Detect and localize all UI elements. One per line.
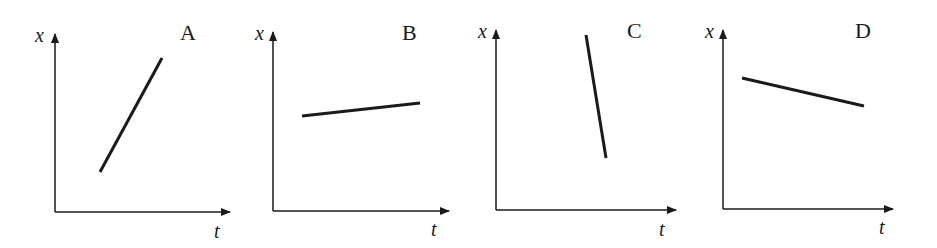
- graphs-canvas: x t A x t B x t C x t D: [0, 0, 937, 248]
- position-line: [742, 78, 864, 106]
- panel-label: C: [627, 18, 642, 43]
- panel-label: A: [180, 20, 196, 45]
- graph-panel-a: x t A: [34, 20, 230, 242]
- x-axis-label: t: [214, 220, 220, 242]
- position-line: [302, 103, 420, 116]
- graph-panel-b: x t B: [254, 20, 449, 240]
- x-axis-label: t: [659, 218, 665, 240]
- panel-label: D: [855, 18, 871, 43]
- y-axis-label: x: [704, 20, 714, 42]
- x-axis-label: t: [879, 216, 885, 238]
- position-line: [100, 58, 162, 172]
- graph-panel-c: x t C: [477, 18, 676, 240]
- y-axis-label: x: [34, 24, 44, 46]
- x-axis-label: t: [431, 218, 437, 240]
- graph-panel-d: x t D: [704, 18, 893, 238]
- y-axis-label: x: [254, 22, 264, 44]
- position-time-graphs-figure: x t A x t B x t C x t D: [0, 0, 937, 248]
- position-line: [586, 35, 606, 158]
- panel-label: B: [402, 20, 417, 45]
- y-axis-label: x: [477, 20, 487, 42]
